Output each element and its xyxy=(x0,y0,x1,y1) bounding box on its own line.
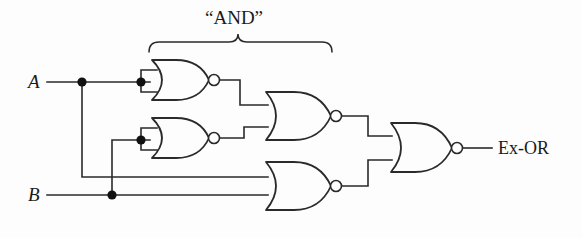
nor-gate-2-body xyxy=(152,118,209,158)
junction-b-branch xyxy=(107,190,116,199)
and-bracket-label: “AND” xyxy=(205,8,263,27)
input-a-label: A xyxy=(28,72,40,91)
nor-gate-5-body xyxy=(391,123,452,172)
junction-a-branch xyxy=(77,77,86,86)
junction-b-gate2 xyxy=(136,135,145,144)
nor-gate-3-body xyxy=(266,92,331,140)
nor-gate-2-output-wire xyxy=(220,127,268,138)
nor-gate-1-bubble xyxy=(209,75,220,86)
junction-a-gate1 xyxy=(136,77,145,86)
nor-gate-1-body xyxy=(152,60,209,100)
nor-gate-3-bubble xyxy=(331,111,342,122)
nor-gate-2 xyxy=(141,118,268,158)
input-b-label: B xyxy=(28,185,40,204)
nor-gate-5-bubble xyxy=(452,143,463,154)
output-label: Ex-OR xyxy=(498,139,549,157)
nor-gate-4-bubble xyxy=(331,181,342,192)
nor-gate-4-body xyxy=(266,162,331,210)
and-brace xyxy=(149,34,332,52)
nor-gate-4 xyxy=(266,160,392,210)
circuit-schematic xyxy=(0,0,582,238)
wire-b-to-gate2 xyxy=(112,140,150,195)
nor-gate-3 xyxy=(266,92,392,140)
logic-diagram: A B “AND” Ex-OR xyxy=(0,0,582,238)
nor-gate-1-output-wire xyxy=(220,80,268,105)
nor-gate-2-bubble xyxy=(209,133,220,144)
nor-gate-4-output-wire xyxy=(342,160,392,186)
nor-gate-3-output-wire xyxy=(342,116,392,136)
nor-gate-1 xyxy=(141,60,268,105)
nor-gate-5 xyxy=(391,123,492,172)
